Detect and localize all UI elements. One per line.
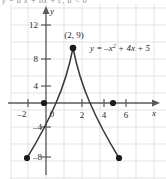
axes: [8, 6, 160, 175]
x-ticklabel-neg2: –2: [17, 109, 27, 119]
point-vertex: [70, 45, 77, 52]
equation-label: y =–x2+ 4x + 5: [89, 42, 150, 53]
vertex-coordinate-label: (2, 9): [64, 30, 84, 40]
equation-term1: –x: [103, 43, 113, 53]
equation-exponent: 2: [113, 42, 117, 49]
x-ticklabel-0: 0: [50, 109, 55, 119]
y-ticklabel-12: 12: [29, 20, 38, 30]
x-axis-label: x: [151, 108, 156, 118]
x-ticklabel-2: 2: [80, 110, 85, 120]
cropped-header-text: y = a x + bx + c, a < 0: [2, 0, 166, 5]
x-ticklabel-6: 6: [124, 110, 129, 120]
x-axis-arrow: [152, 100, 160, 107]
y-ticklabel-8: 8: [34, 54, 39, 64]
y-axis-arrow: [43, 6, 50, 14]
y-ticklabel-4: 4: [34, 81, 39, 91]
point-x-intercept-left: [41, 100, 47, 106]
point-right-endpoint: [116, 155, 122, 161]
point-x-intercept-right: [110, 100, 116, 106]
x-ticklabel-4: 4: [102, 110, 107, 120]
equation-rest: + 4x + 5: [118, 43, 150, 53]
graph-canvas: 12 8 4 –4 –8 –2 0 2 4 6 x y (2, 9) y =–x…: [0, 0, 166, 179]
y-axis-label: y: [49, 6, 54, 16]
parabola-figure: y = a x + bx + c, a < 0: [0, 0, 166, 179]
point-left-endpoint: [24, 155, 30, 161]
y-ticklabel-neg8: –8: [32, 152, 43, 162]
equation-lhs: y =: [89, 43, 102, 53]
y-ticklabel-neg4: –4: [32, 122, 43, 132]
